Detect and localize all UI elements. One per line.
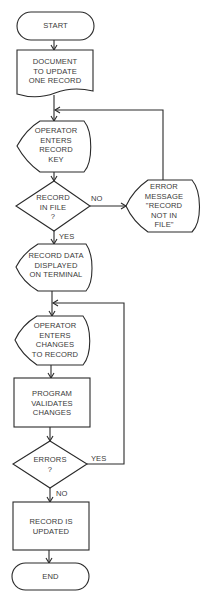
end-label: END	[12, 572, 89, 582]
edge-label-yes-in-file: YES	[59, 232, 74, 241]
flowchart-canvas	[0, 0, 209, 603]
document-label: DOCUMENT TO UPDATE ONE RECORD	[17, 57, 93, 86]
in-file-label: RECORD IN FILE ?	[20, 193, 86, 222]
edge-label-yes-errors: YES	[91, 454, 106, 463]
updated-label: RECORD IS UPDATED	[13, 517, 89, 536]
errors-label: ERRORS ?	[14, 455, 86, 474]
enter-key-label: OPERATOR ENTERS RECORD KEY	[24, 126, 88, 164]
error-message-label: ERROR MESSAGE "RECORD NOT IN FILE"	[132, 182, 196, 230]
data-displayed-label: RECORD DATA DISPLAYED ON TERMINAL	[20, 251, 92, 280]
edge-label-no-in-file: NO	[91, 194, 102, 203]
start-label: START	[17, 21, 94, 31]
edge-label-no-errors: NO	[56, 489, 67, 498]
enter-changes-label: OPERATOR ENTERS CHANGES TO RECORD	[22, 321, 88, 359]
validates-label: PROGRAM VALIDATES CHANGES	[14, 389, 90, 418]
